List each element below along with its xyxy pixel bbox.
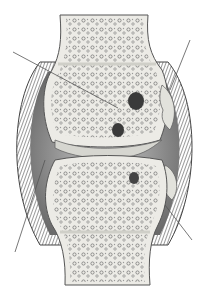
lesion-lower-right <box>129 172 139 184</box>
lesion-upper-center <box>112 123 124 137</box>
lesion-upper-right <box>128 92 144 110</box>
joint-diagram <box>0 0 209 295</box>
joint-illustration <box>0 0 209 295</box>
